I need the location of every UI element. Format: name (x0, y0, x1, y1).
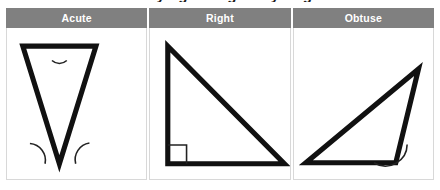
column-header-right: Right (149, 8, 290, 28)
obtuse-triangle-diagram (294, 28, 433, 179)
cell-obtuse-triangle (293, 28, 434, 180)
right-angle-square-mark (168, 145, 187, 164)
column-header-acute: Acute (6, 8, 147, 28)
right-triangle-shape (168, 46, 285, 164)
obtuse-triangle-shape (306, 69, 419, 163)
table-header-row: Acute Right Obtuse (6, 8, 434, 28)
figure-title: Classifying Triangles by Angles (0, 0, 440, 2)
cell-right-triangle (149, 28, 290, 180)
column-header-obtuse-label: Obtuse (345, 12, 382, 24)
acute-bottom-left-angle-arc (30, 144, 45, 164)
column-header-obtuse: Obtuse (293, 8, 434, 28)
triangles-table: Acute Right Obtuse (6, 8, 434, 180)
acute-apex-angle-arc (52, 61, 67, 64)
column-header-acute-label: Acute (62, 12, 92, 24)
triangle-classification-figure: Classifying Triangles by Angles Acute Ri… (0, 0, 440, 190)
table-body-row (6, 28, 434, 180)
acute-bottom-right-angle-arc (75, 143, 89, 164)
right-triangle-diagram (150, 28, 289, 179)
column-header-right-label: Right (206, 12, 234, 24)
cell-acute-triangle (6, 28, 147, 180)
acute-triangle-diagram (7, 28, 146, 179)
